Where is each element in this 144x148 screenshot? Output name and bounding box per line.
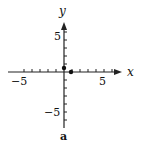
y-tick-label-neg5: −5	[44, 106, 60, 119]
x-tick-label-5: 5	[99, 75, 106, 88]
x-tick-label-neg5: −5	[11, 75, 27, 88]
x-axis-label: x	[127, 65, 134, 79]
y-tick-label-5: 5	[54, 30, 61, 43]
data-point-0-0.5	[62, 66, 66, 70]
coordinate-plot: y x −5 5 5 −5 a	[0, 0, 144, 148]
y-axis-label: y	[58, 4, 66, 18]
x-axis-arrow-icon	[114, 69, 122, 75]
y-axis-arrow-icon	[61, 22, 67, 30]
data-point-1-0	[69, 70, 73, 74]
figure-caption: a	[60, 130, 67, 143]
